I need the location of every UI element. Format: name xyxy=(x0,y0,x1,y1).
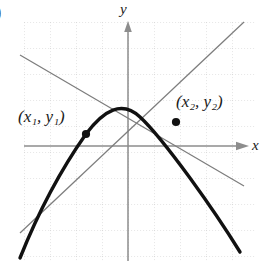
figure-tag: ) xyxy=(0,2,1,21)
plot-canvas xyxy=(0,0,268,261)
parabola-secant-figure: ) y x (x₁, y₁) (x₂, y₂) xyxy=(0,0,268,261)
point-label-p2: (x₂, y₂) xyxy=(176,93,223,110)
y-axis-label: y xyxy=(120,2,127,17)
point-marker-p1 xyxy=(82,130,90,138)
x-axis-label: x xyxy=(252,138,259,153)
point-label-p1: (x₁, y₁) xyxy=(18,108,65,125)
point-marker-p2 xyxy=(172,118,180,126)
